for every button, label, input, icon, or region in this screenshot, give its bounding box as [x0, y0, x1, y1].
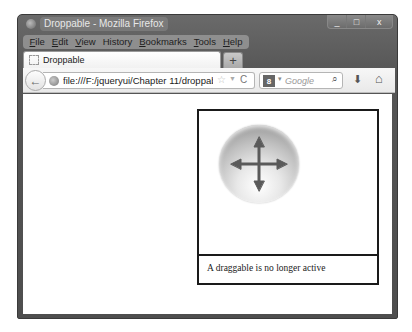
menu-help[interactable]: Help [219, 35, 246, 49]
status-message: A draggable is no longer active [207, 263, 325, 273]
firefox-icon [26, 19, 36, 29]
title-bar[interactable]: Droppable - Mozilla Firefox _ □ x [18, 15, 397, 35]
bookmark-star-icon[interactable]: ☆ [217, 74, 226, 85]
tab-label: Droppable [43, 55, 85, 65]
new-tab-button[interactable]: + [223, 52, 243, 68]
browser-window: Droppable - Mozilla Firefox _ □ x File E… [17, 14, 398, 319]
menu-history[interactable]: History [99, 35, 136, 49]
menu-edit[interactable]: Edit [48, 35, 71, 49]
tab-droppable[interactable]: Droppable [23, 51, 221, 68]
reload-icon[interactable]: C [240, 74, 247, 85]
move-arrows-icon [219, 125, 299, 203]
url-text[interactable]: file:///F:/jqueryui/Chapter 11/droppab [63, 74, 213, 88]
maximize-button[interactable]: □ [347, 15, 366, 28]
engine-dropdown-icon[interactable]: ▾ [278, 75, 282, 83]
window-controls: _ □ x [327, 15, 393, 29]
menu-view[interactable]: View [72, 35, 99, 49]
home-icon[interactable]: ⌂ [375, 71, 383, 86]
minimize-button[interactable]: _ [328, 15, 347, 28]
download-icon[interactable]: ⬇ [353, 73, 362, 86]
menu-tools[interactable]: Tools [190, 35, 219, 49]
search-bar[interactable]: 8 ▾ Google ⌕ [259, 72, 343, 89]
page-content: A draggable is no longer active [23, 94, 392, 314]
search-input[interactable]: Google [285, 74, 314, 88]
droppable-container: A draggable is no longer active [197, 109, 379, 285]
page-favicon-icon [29, 55, 39, 65]
url-history-dropdown-icon[interactable]: ▼ [229, 75, 236, 82]
menu-bar: File Edit View History Bookmarks Tools H… [23, 35, 249, 49]
close-button[interactable]: x [366, 15, 392, 28]
draggable-move-icon[interactable] [219, 125, 299, 203]
drop-target[interactable] [199, 111, 377, 256]
menu-bookmarks[interactable]: Bookmarks [136, 35, 191, 49]
search-icon[interactable]: ⌕ [332, 73, 338, 85]
site-identity-icon[interactable] [49, 76, 59, 86]
window-title: Droppable - Mozilla Firefox [40, 17, 168, 31]
menu-file[interactable]: File [26, 35, 48, 49]
tab-strip: Droppable + [23, 51, 395, 68]
navigation-toolbar: file:///F:/jqueryui/Chapter 11/droppab ☆… [23, 68, 395, 93]
search-engine-icon[interactable]: 8 [263, 75, 275, 87]
url-bar[interactable]: file:///F:/jqueryui/Chapter 11/droppab ☆… [43, 72, 255, 89]
back-button[interactable]: ← [25, 70, 46, 91]
